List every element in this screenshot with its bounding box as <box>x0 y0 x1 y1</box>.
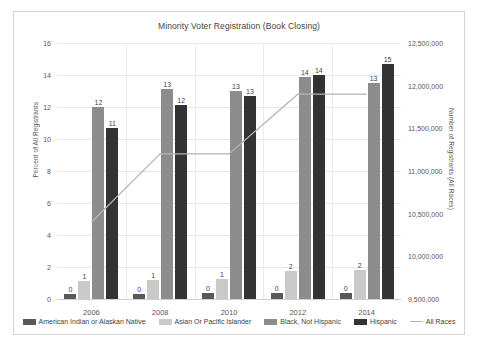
y-axis-right-tick-label: 11,000,000 <box>408 168 443 175</box>
legend-item[interactable]: American Indian or Alaskan Native <box>23 318 146 325</box>
legend-box-swatch-icon <box>23 319 36 325</box>
x-axis-tick-label: 2012 <box>263 308 332 317</box>
category-axis-line <box>57 299 401 300</box>
legend-label: American Indian or Alaskan Native <box>39 318 146 325</box>
legend-label: Black, Not Hispanic <box>280 318 341 325</box>
legend-label: All Races <box>426 318 456 325</box>
y-axis-left-tick-label: 6 <box>47 200 51 207</box>
chart-container: Minority Voter Registration (Book Closin… <box>13 11 465 335</box>
line-path-all-races[interactable] <box>91 94 366 222</box>
y-axis-right-tick-label: 10,500,000 <box>408 210 443 217</box>
y-axis-left-tick-label: 10 <box>43 136 51 143</box>
legend-item[interactable]: Asian Or Pacific Islander <box>159 318 252 325</box>
x-axis-tick-label: 2006 <box>57 308 126 317</box>
y-axis-left-tick-label: 16 <box>43 40 51 47</box>
x-axis-tick-label: 2008 <box>126 308 195 317</box>
legend-line-swatch-icon <box>410 321 423 322</box>
y-axis-left-tick-label: 0 <box>47 296 51 303</box>
y-axis-right-tick-label: 9,500,000 <box>408 296 439 303</box>
y-axis-right-title: Number of Registrants (All Races) <box>448 108 455 210</box>
all-races-line <box>57 43 401 299</box>
y-axis-right-tick-label: 11,500,000 <box>408 125 443 132</box>
legend-label: Asian Or Pacific Islander <box>175 318 252 325</box>
y-axis-left-tick-label: 2 <box>47 264 51 271</box>
y-axis-left-tick-label: 14 <box>43 72 51 79</box>
chart-title: Minority Voter Registration (Book Closin… <box>14 21 464 31</box>
y-axis-right-tick-label: 12,500,000 <box>408 40 443 47</box>
chart-legend: American Indian or Alaskan NativeAsian O… <box>14 318 464 325</box>
legend-item[interactable]: Black, Not Hispanic <box>264 318 341 325</box>
legend-label: Hispanic <box>370 318 397 325</box>
legend-item[interactable]: All Races <box>410 318 456 325</box>
y-axis-right-tick-label: 10,000,000 <box>408 253 443 260</box>
legend-box-swatch-icon <box>264 319 277 325</box>
y-axis-left-tick-label: 12 <box>43 104 51 111</box>
y-axis-right-tick-label: 12,000,000 <box>408 82 443 89</box>
y-axis-left-tick-label: 4 <box>47 232 51 239</box>
legend-box-swatch-icon <box>159 319 172 325</box>
y-axis-left-tick-label: 8 <box>47 168 51 175</box>
legend-item[interactable]: Hispanic <box>354 318 397 325</box>
y-axis-left-title: Percent of All Registrants <box>32 102 39 178</box>
x-axis-tick-label: 2014 <box>332 308 401 317</box>
plot-area: 0246810121416 9,500,00010,000,00010,500,… <box>57 43 401 299</box>
legend-box-swatch-icon <box>354 319 367 325</box>
x-axis-tick-label: 2010 <box>195 308 264 317</box>
